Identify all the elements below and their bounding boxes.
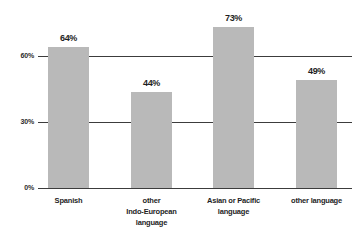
bar-value-spanish: 64% — [48, 33, 89, 43]
category-label-indo-european: other Indo-European language — [111, 195, 192, 228]
ytick-label-60: 60% — [6, 52, 34, 60]
category-label-other-language: other language — [276, 195, 357, 206]
axis-baseline-0 — [38, 188, 352, 189]
bar-chart: 60% 30% 0% 64% 44% 73% 49% Spanish other… — [0, 0, 364, 245]
bar-value-asian-pacific: 73% — [213, 13, 254, 23]
bar-indo-european — [131, 92, 172, 188]
bar-value-indo-european: 44% — [131, 78, 172, 88]
ytick-label-30: 30% — [6, 118, 34, 126]
plot-area: 60% 30% 0% 64% 44% 73% 49% Spanish other… — [0, 0, 364, 245]
category-label-asian-pacific: Asian or Pacific language — [193, 195, 274, 217]
bar-value-other-language: 49% — [296, 66, 337, 76]
bar-spanish — [48, 47, 89, 188]
ytick-label-0: 0% — [6, 184, 34, 192]
category-label-spanish: Spanish — [28, 195, 109, 206]
bar-asian-pacific — [213, 27, 254, 188]
bar-other-language — [296, 80, 337, 188]
